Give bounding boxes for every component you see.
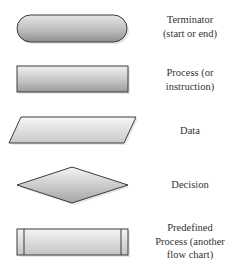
predefined-process-symbol xyxy=(17,229,130,257)
predefined-process-label: Predefined Process (another flow chart) xyxy=(140,221,236,262)
process-symbol xyxy=(17,66,130,94)
label-line: Process (or xyxy=(140,66,236,80)
label-line: Terminator xyxy=(140,13,236,27)
decision-symbol xyxy=(17,167,130,205)
label-line: Process (another xyxy=(140,235,236,249)
process-label: Process (or instruction) xyxy=(140,66,236,93)
label-line: Decision xyxy=(140,178,236,192)
terminator-label: Terminator (start or end) xyxy=(140,13,236,40)
data-label: Data xyxy=(140,124,236,138)
data-symbol xyxy=(9,117,138,145)
flowchart-symbols-diagram: Terminator (start or end) Process (or in… xyxy=(0,0,236,274)
label-line: (start or end) xyxy=(140,27,236,41)
terminator-symbol xyxy=(17,15,129,44)
label-line: Data xyxy=(140,124,236,138)
label-line: flow chart) xyxy=(140,248,236,262)
label-line: instruction) xyxy=(140,80,236,94)
decision-label: Decision xyxy=(140,178,236,192)
label-line: Predefined xyxy=(140,221,236,235)
